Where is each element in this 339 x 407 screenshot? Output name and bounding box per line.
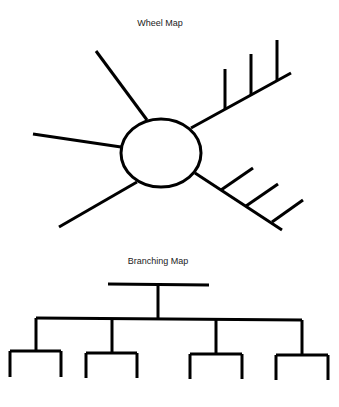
spoke-lower-right-tick-2 [246,184,278,206]
spoke-lower-right [195,173,282,230]
spoke-lower-right-tick-1 [221,168,253,190]
wheel-map [33,40,303,230]
center-ellipse [121,119,201,187]
spoke-lower-right-tick-3 [272,200,303,222]
spoke-upper-right [191,73,291,128]
branching-map [10,284,328,380]
spoke-upper-left [96,51,147,120]
spoke-left [33,134,121,147]
diagram-canvas [0,0,339,407]
spoke-lower-left [59,182,137,227]
main-bar [36,318,302,320]
